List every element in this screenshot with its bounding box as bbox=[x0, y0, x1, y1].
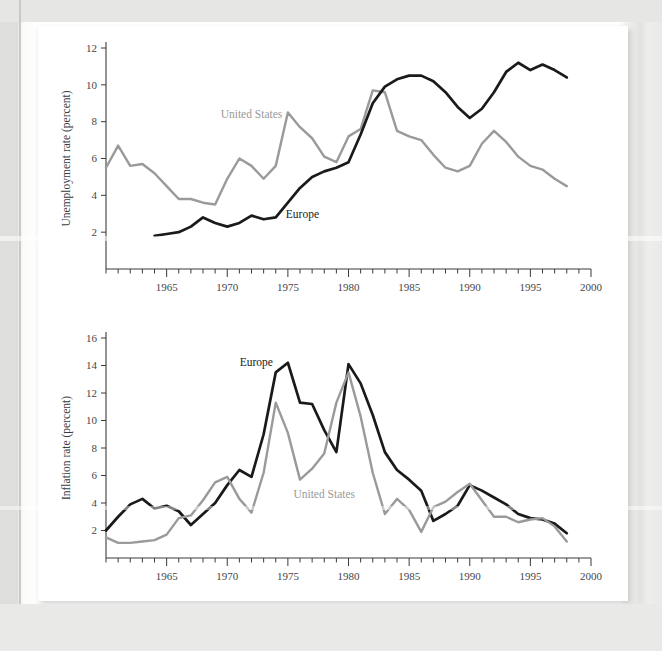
x-tick-label: 1965 bbox=[156, 281, 179, 293]
y-tick-label: 4 bbox=[92, 497, 98, 509]
x-tick-label: 1985 bbox=[398, 281, 421, 293]
page-top-margin bbox=[0, 0, 662, 22]
x-tick-label: 2000 bbox=[580, 281, 603, 293]
series-line-europe bbox=[155, 63, 567, 236]
y-tick-label: 6 bbox=[92, 469, 98, 481]
y-tick-label: 8 bbox=[92, 115, 98, 127]
y-tick-label: 2 bbox=[92, 524, 98, 536]
y-tick-label: 6 bbox=[92, 152, 98, 164]
y-tick-label: 2 bbox=[92, 226, 98, 238]
x-tick-label: 1975 bbox=[277, 281, 300, 293]
unemployment-chart: 2468101219651970197519801985199019952000… bbox=[38, 26, 628, 311]
page-bottom-margin bbox=[0, 604, 662, 651]
y-tick-label: 10 bbox=[86, 79, 98, 91]
y-axis-title: Unemployment rate (percent) bbox=[60, 90, 73, 226]
y-axis-title: Inflation rate (percent) bbox=[60, 396, 73, 500]
x-tick-label: 1970 bbox=[216, 570, 239, 582]
y-tick-label: 4 bbox=[92, 189, 98, 201]
y-tick-label: 10 bbox=[86, 414, 98, 426]
series-label-europe: Europe bbox=[240, 356, 273, 369]
x-tick-label: 1970 bbox=[216, 281, 239, 293]
series-label-united-states: United States bbox=[221, 108, 283, 120]
inflation-chart-svg: 2468101214161965197019751980198519901995… bbox=[38, 318, 628, 603]
y-tick-label: 12 bbox=[86, 387, 97, 399]
x-tick-label: 1985 bbox=[398, 570, 421, 582]
series-line-united-states bbox=[106, 372, 567, 543]
x-tick-label: 1990 bbox=[459, 281, 482, 293]
y-tick-label: 16 bbox=[86, 332, 98, 344]
x-tick-label: 1995 bbox=[519, 281, 542, 293]
x-tick-label: 1975 bbox=[277, 570, 300, 582]
page-left-edge bbox=[19, 0, 21, 610]
inflation-chart: 2468101214161965197019751980198519901995… bbox=[38, 318, 628, 603]
series-label-europe: Europe bbox=[286, 208, 319, 221]
y-tick-label: 12 bbox=[86, 42, 97, 54]
y-tick-label: 14 bbox=[86, 359, 98, 371]
x-tick-label: 1995 bbox=[519, 570, 542, 582]
x-tick-label: 1980 bbox=[338, 570, 361, 582]
x-tick-label: 2000 bbox=[580, 570, 603, 582]
unemployment-chart-svg: 2468101219651970197519801985199019952000… bbox=[38, 26, 628, 311]
series-line-united-states bbox=[106, 90, 567, 204]
series-line-europe bbox=[106, 363, 567, 534]
series-label-united-states: United States bbox=[293, 488, 355, 500]
x-tick-label: 1965 bbox=[156, 570, 179, 582]
y-tick-label: 8 bbox=[92, 442, 98, 454]
x-tick-label: 1990 bbox=[459, 570, 482, 582]
x-tick-label: 1980 bbox=[338, 281, 361, 293]
